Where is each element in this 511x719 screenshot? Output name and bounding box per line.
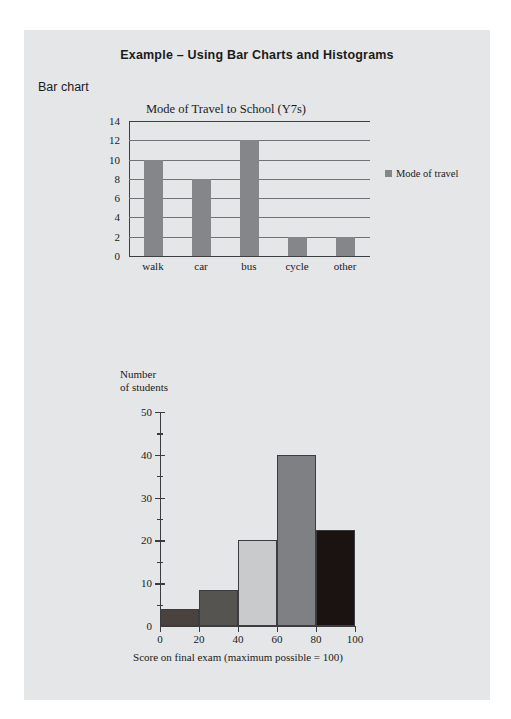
histogram-y-tick-label: 20 bbox=[122, 534, 152, 546]
bar-car bbox=[192, 179, 211, 256]
histogram-y-tick-label: 10 bbox=[122, 577, 152, 589]
x-tick-80 bbox=[316, 627, 317, 632]
x-category-label: bus bbox=[225, 260, 273, 272]
bar-chart-plot-area bbox=[129, 121, 370, 256]
y-tick-label: 6 bbox=[80, 192, 120, 204]
hist-bar-40-60 bbox=[238, 540, 277, 626]
legend-swatch-icon bbox=[385, 170, 392, 177]
y-tick-label: 2 bbox=[80, 231, 120, 243]
histogram-y-tick-label: 50 bbox=[122, 406, 152, 418]
y-tick-label: 4 bbox=[80, 211, 120, 223]
bar-bus bbox=[240, 140, 259, 256]
hist-bar-20-40 bbox=[199, 590, 238, 626]
gridline-0 bbox=[129, 256, 370, 257]
y-tick-label: 12 bbox=[80, 134, 120, 146]
histogram-x-tick-label: 100 bbox=[340, 633, 370, 645]
histogram-y-tick-label: 30 bbox=[122, 492, 152, 504]
hist-bar-80-100 bbox=[316, 530, 355, 626]
x-tick-20 bbox=[199, 627, 200, 632]
y-tick-label: 0 bbox=[80, 250, 120, 262]
x-category-label: other bbox=[321, 260, 369, 272]
histogram-x-tick-label: 40 bbox=[223, 633, 253, 645]
histogram-y-axis-label-line1: Number bbox=[120, 368, 168, 381]
x-tick-0 bbox=[160, 627, 161, 632]
y-tick-label: 14 bbox=[80, 115, 120, 127]
histogram-y-tick-label: 40 bbox=[122, 449, 152, 461]
document-page: Example – Using Bar Charts and Histogram… bbox=[24, 30, 490, 700]
bar-chart-legend: Mode of travel bbox=[385, 168, 458, 179]
y-tick-label: 10 bbox=[80, 154, 120, 166]
bar-walk bbox=[144, 160, 163, 256]
histogram-x-axis-label: Score on final exam (maximum possible = … bbox=[100, 651, 376, 663]
x-tick-40 bbox=[238, 627, 239, 632]
x-category-label: car bbox=[177, 260, 225, 272]
histogram-x-tick-label: 20 bbox=[184, 633, 214, 645]
x-category-label: walk bbox=[129, 260, 177, 272]
section-label: Bar chart bbox=[38, 80, 89, 94]
y-tick-label: 8 bbox=[80, 173, 120, 185]
x-category-label: cycle bbox=[273, 260, 321, 272]
x-tick-60 bbox=[277, 627, 278, 632]
histogram-y-axis-label-line2: of students bbox=[120, 381, 168, 394]
histogram-plot-area bbox=[160, 412, 355, 626]
bar-chart-title: Mode of Travel to School (Y7s) bbox=[80, 102, 372, 117]
histogram-x-axis-ticks: 0 20 40 60 80 100 bbox=[160, 627, 360, 651]
bar-chart: Mode of Travel to School (Y7s) 14 12 10 … bbox=[80, 102, 480, 317]
histogram-y-axis-label: Number of students bbox=[120, 368, 168, 393]
hist-bar-0-20 bbox=[160, 609, 199, 626]
x-tick-100 bbox=[355, 627, 356, 632]
histogram-y-tick-label: 0 bbox=[122, 620, 152, 632]
histogram-x-tick-label: 60 bbox=[262, 633, 292, 645]
bar-cycle bbox=[288, 237, 307, 256]
hist-bar-60-80 bbox=[277, 455, 316, 626]
page-title: Example – Using Bar Charts and Histogram… bbox=[24, 48, 490, 62]
histogram-x-tick-label: 80 bbox=[301, 633, 331, 645]
histogram-chart: Number of students 50 40 30 20 10 0 bbox=[120, 368, 440, 688]
legend-entry-label: Mode of travel bbox=[396, 168, 458, 179]
histogram-x-tick-label: 0 bbox=[145, 633, 175, 645]
bar-other bbox=[336, 237, 355, 256]
